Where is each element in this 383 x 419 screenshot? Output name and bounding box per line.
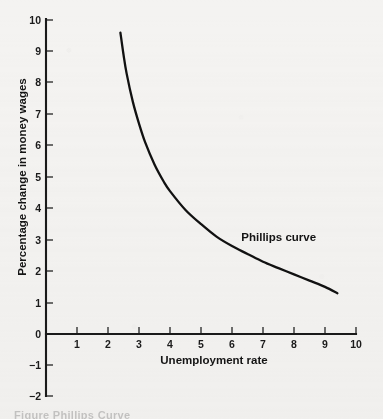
phillips-curve-chart: 10 9 8 7 6 5 4 3 2 1 0 −1 −2 <box>0 0 383 419</box>
x-tick-label: 9 <box>322 338 328 350</box>
y-tick-label: 2 <box>35 265 41 277</box>
y-tick-label: 6 <box>35 139 41 151</box>
y-tick-label: 4 <box>35 202 41 214</box>
y-tick-label: 9 <box>35 45 41 57</box>
y-tick-label: 3 <box>35 234 41 246</box>
y-tick-label: 5 <box>35 171 41 183</box>
y-tick-label: −1 <box>29 359 41 371</box>
x-tick-label: 4 <box>167 338 173 350</box>
cut-off-caption: Figure Phillips Curve <box>0 409 383 419</box>
x-tick-label: 5 <box>198 338 204 350</box>
y-axis-tick-labels: 10 9 8 7 6 5 4 3 2 1 0 −1 −2 <box>29 14 41 402</box>
x-tick-label: 2 <box>105 338 111 350</box>
y-tick-label: 0 <box>35 328 41 340</box>
x-axis-tick-labels: 1 2 3 4 5 6 7 8 9 10 <box>74 338 362 350</box>
phillips-curve-figure: 10 9 8 7 6 5 4 3 2 1 0 −1 −2 <box>0 0 383 419</box>
y-tick-label: −2 <box>29 390 41 402</box>
y-tick-label: 10 <box>29 14 41 26</box>
y-axis-title: Percentage change in money wages <box>16 78 28 276</box>
cut-off-caption-text: Figure Phillips Curve <box>0 409 383 419</box>
x-tick-label: 10 <box>350 338 362 350</box>
x-tick-label: 1 <box>74 338 80 350</box>
x-tick-label: 6 <box>229 338 235 350</box>
phillips-curve-line <box>120 33 337 294</box>
phillips-curve-annotation: Phillips curve <box>241 231 316 243</box>
y-tick-label: 1 <box>35 297 41 309</box>
y-tick-label: 7 <box>35 108 41 120</box>
x-axis-title: Unemployment rate <box>160 354 267 366</box>
x-tick-label: 7 <box>260 338 266 350</box>
x-tick-label: 3 <box>136 338 142 350</box>
y-tick-label: 8 <box>35 76 41 88</box>
x-tick-label: 8 <box>291 338 297 350</box>
